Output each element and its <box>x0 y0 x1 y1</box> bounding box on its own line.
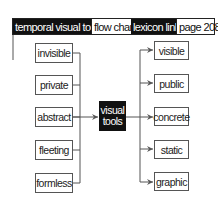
node-fleeting: fleeting <box>35 140 73 160</box>
node-abstract: abstract <box>35 107 73 127</box>
connector-lines <box>0 0 218 198</box>
node-private: private <box>35 75 73 95</box>
node-static: static <box>154 140 189 159</box>
node-concrete: concrete <box>154 107 189 126</box>
node-graphic: graphic <box>154 172 189 191</box>
node-visual-tools: visual tools <box>99 101 126 131</box>
node-visible: visible <box>154 41 189 60</box>
node-public: public <box>154 74 189 93</box>
center-line-2: tools <box>103 116 123 127</box>
node-formless: formless <box>35 173 73 193</box>
node-invisible: invisible <box>35 43 73 63</box>
